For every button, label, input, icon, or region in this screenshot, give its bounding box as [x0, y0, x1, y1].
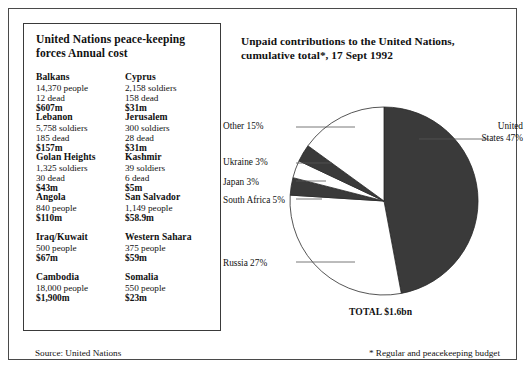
operation-name: Somalia — [125, 272, 216, 283]
operation-entry: Balkans14,370 people12 dead$607m — [36, 72, 125, 112]
pie-slice-russia — [290, 195, 401, 295]
pie-chart — [229, 99, 519, 314]
operation-entry: Angola840 people$110m — [36, 192, 125, 232]
operation-personnel: 2,158 soldiers — [125, 83, 216, 93]
operation-personnel: 39 soldiers — [125, 163, 216, 173]
operation-personnel: 375 people — [125, 243, 216, 253]
operation-name: Western Sahara — [125, 232, 216, 243]
operation-personnel: 500 people — [36, 243, 125, 253]
operation-name: Golan Heights — [36, 152, 125, 163]
pie-label-ukraine: Ukraine 3% — [223, 157, 268, 168]
pie-label-united-states: United States 47% — [477, 121, 523, 144]
operation-casualties: 158 dead — [125, 93, 216, 103]
operation-personnel: 1,325 soldiers — [36, 163, 125, 173]
pie-label-south-africa: South Africa 5% — [223, 195, 285, 206]
operation-entry: Western Sahara375 people$59m — [125, 232, 216, 272]
pie-label-japan: Japan 3% — [223, 177, 259, 188]
operation-cost: $59m — [125, 253, 216, 263]
operation-personnel: 840 people — [36, 203, 125, 213]
operation-name: Balkans — [36, 72, 125, 83]
operation-entry: Cyprus2,158 soldiers158 dead$31m — [125, 72, 216, 112]
pie-slice-united-states — [384, 107, 478, 293]
source-note: Source: United Nations — [35, 348, 121, 358]
operation-entry: Cambodia18,000 people$1,900m — [36, 272, 125, 312]
operation-entry: Kashmir39 soldiers6 dead$5m — [125, 152, 216, 192]
operation-name: Iraq/Kuwait — [36, 232, 125, 243]
operation-personnel: 1,149 people — [125, 203, 216, 213]
budget-footnote: * Regular and peacekeeping budget — [369, 348, 500, 358]
operation-personnel: 14,370 people — [36, 83, 125, 93]
operation-personnel: 300 soldiers — [125, 123, 216, 133]
operation-personnel: 5,758 soldiers — [36, 123, 125, 133]
operation-cost: $23m — [125, 293, 216, 303]
operation-casualties: 30 dead — [36, 173, 125, 183]
left-panel-title: United Nations peace-keeping forces Annu… — [36, 33, 212, 60]
operation-name: Kashmir — [125, 152, 216, 163]
operation-entry: Somalia550 people$23m — [125, 272, 216, 312]
pie-chart-svg — [229, 99, 519, 314]
operation-casualties: 185 dead — [36, 133, 125, 143]
operation-cost: $1,900m — [36, 293, 125, 303]
operation-personnel: 550 people — [125, 283, 216, 293]
operation-entry: Jerusalem300 soldiers28 dead$31m — [125, 112, 216, 152]
operation-entry: Iraq/Kuwait500 people$67m — [36, 232, 125, 272]
operation-entry: Lebanon5,758 soldiers185 dead$157m — [36, 112, 125, 152]
operation-entry: Golan Heights1,325 soldiers30 dead$43m — [36, 152, 125, 192]
operation-name: Jerusalem — [125, 112, 216, 123]
operation-name: San Salvador — [125, 192, 216, 203]
operation-name: Cambodia — [36, 272, 125, 283]
pie-label-russia: Russia 27% — [223, 258, 267, 269]
operation-name: Angola — [36, 192, 125, 203]
operation-name: Cyprus — [125, 72, 216, 83]
operation-casualties: 12 dead — [36, 93, 125, 103]
operation-cost: $110m — [36, 213, 125, 223]
pie-chart-title: Unpaid contributions to the United Natio… — [241, 35, 507, 62]
pie-label-other: Other 15% — [223, 121, 264, 132]
operation-cost: $67m — [36, 253, 125, 263]
infographic-frame: United Nations peace-keeping forces Annu… — [8, 8, 517, 360]
operation-entry: San Salvador1,149 people$58.9m — [125, 192, 216, 232]
operation-casualties: 6 dead — [125, 173, 216, 183]
peacekeeping-cost-panel: United Nations peace-keeping forces Annu… — [23, 23, 221, 331]
operation-cost: $58.9m — [125, 213, 216, 223]
operation-personnel: 18,000 people — [36, 283, 125, 293]
operation-casualties: 28 dead — [125, 133, 216, 143]
pie-total-label: TOTAL $1.6bn — [349, 306, 412, 317]
operation-name: Lebanon — [36, 112, 125, 123]
peacekeeping-operations-table: Balkans14,370 people12 dead$607mCyprus2,… — [36, 72, 216, 312]
